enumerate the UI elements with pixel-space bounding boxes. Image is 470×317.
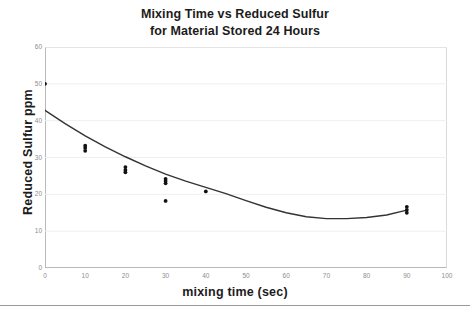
x-axis-title: mixing time (sec) (0, 285, 470, 299)
data-point (405, 211, 409, 215)
trend-line-path (45, 110, 407, 218)
y-axis-tick: 0 (18, 264, 42, 272)
data-point (45, 82, 47, 86)
trend-line (45, 110, 407, 218)
x-axis-tick: 80 (354, 272, 380, 279)
plot-canvas (45, 47, 447, 268)
x-axis-tick: 20 (112, 272, 138, 279)
data-point (124, 170, 128, 174)
x-axis-tick: 90 (394, 272, 420, 279)
data-point (83, 149, 87, 153)
chart-title: Mixing Time vs Reduced Sulfur for Materi… (0, 6, 470, 40)
chart-title-line-1: Mixing Time vs Reduced Sulfur (0, 6, 470, 23)
x-axis-tick: 100 (434, 272, 460, 279)
data-point (204, 189, 208, 193)
data-point (164, 199, 168, 203)
data-point (164, 181, 168, 185)
x-axis-tick-labels: 0102030405060708090100 (0, 272, 470, 284)
x-axis-tick: 70 (313, 272, 339, 279)
page-bottom-rule (0, 305, 470, 306)
y-axis-title: Reduced Sulfur ppm (21, 57, 35, 247)
y-axis-tick: 60 (18, 43, 42, 51)
x-axis-tick: 0 (32, 272, 58, 279)
x-axis-tick: 60 (273, 272, 299, 279)
chart-title-line-2: for Material Stored 24 Hours (0, 23, 470, 40)
gridlines (45, 47, 447, 231)
x-axis-tick: 50 (233, 272, 259, 279)
x-axis-tick: 10 (72, 272, 98, 279)
x-axis-tick: 30 (153, 272, 179, 279)
x-axis-tick: 40 (193, 272, 219, 279)
chart-page: Mixing Time vs Reduced Sulfur for Materi… (0, 0, 470, 317)
